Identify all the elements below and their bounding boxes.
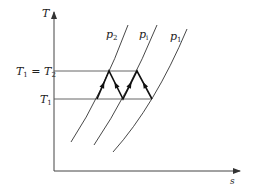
isobar-curve-p1: [113, 29, 187, 152]
temperature-label-lower: T1: [40, 93, 52, 107]
isobar-label-p1: p1: [170, 30, 182, 44]
isobar-curve-p2: [71, 25, 128, 142]
arrow-up-icon: [141, 81, 148, 89]
x-axis-label: s: [230, 176, 235, 186]
t-s-diagram: T s T1 = T2 T1 p2 pi p1: [0, 0, 264, 193]
arrow-up-icon: [112, 81, 119, 89]
isobar-label-p2: p2: [106, 28, 118, 42]
y-axis-label: T: [42, 7, 51, 20]
isobar-label-pi: pi: [139, 28, 149, 42]
temperature-label-upper: T1 = T2: [16, 65, 56, 79]
process-path-arrows: [100, 81, 149, 89]
arrow-up-icon: [100, 81, 107, 89]
